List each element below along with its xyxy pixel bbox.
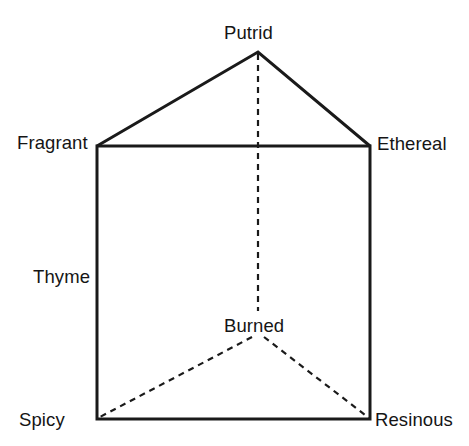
front-face-rectangle: [97, 146, 370, 419]
vertex-label-spicy: Spicy: [19, 411, 65, 430]
prism-drawing: [0, 0, 469, 446]
vertex-label-burned: Burned: [224, 317, 284, 336]
hidden-edge-burned-resinous: [264, 337, 369, 418]
smell-prism-figure: Putrid Fragrant Ethereal Thyme Burned Sp…: [0, 0, 469, 446]
vertex-label-ethereal: Ethereal: [377, 135, 447, 154]
top-triangle-edges: [97, 52, 370, 146]
hidden-edge-burned-spicy: [98, 337, 252, 418]
vertex-label-putrid: Putrid: [224, 24, 273, 43]
vertex-label-fragrant: Fragrant: [17, 134, 88, 153]
edge-label-thyme: Thyme: [33, 268, 90, 287]
vertex-label-resinous: Resinous: [375, 411, 453, 430]
